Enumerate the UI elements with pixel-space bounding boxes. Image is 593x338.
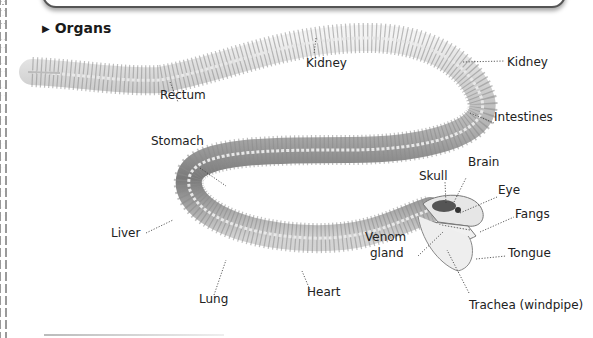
label-fangs: Fangs [515, 207, 550, 221]
leader-tongue [476, 256, 506, 259]
label-rectum: Rectum [160, 88, 206, 102]
label-stomach: Stomach [151, 134, 204, 148]
label-skull: Skull [419, 169, 447, 183]
leader-fangs [480, 217, 514, 232]
footer-rule [44, 334, 224, 336]
label-intestines: Intestines [494, 110, 553, 124]
label-venom-gland-line1: Venom [365, 230, 406, 244]
snake-skull [418, 195, 483, 271]
label-trachea: Trachea (windpipe) [469, 298, 583, 312]
label-tongue: Tongue [508, 246, 551, 260]
label-kidney-1: Kidney [306, 56, 347, 70]
label-brain: Brain [468, 155, 499, 169]
label-liver: Liver [111, 226, 140, 240]
leader-liver [146, 220, 173, 233]
leader-lung [214, 260, 226, 295]
label-eye: Eye [498, 183, 520, 197]
label-lung: Lung [199, 292, 228, 306]
label-kidney-2: Kidney [507, 55, 548, 69]
snake-tail [28, 72, 60, 73]
snake-skeleton-illustration [0, 0, 593, 338]
label-heart: Heart [307, 285, 340, 299]
label-venom-gland-line2: gland [370, 246, 404, 260]
